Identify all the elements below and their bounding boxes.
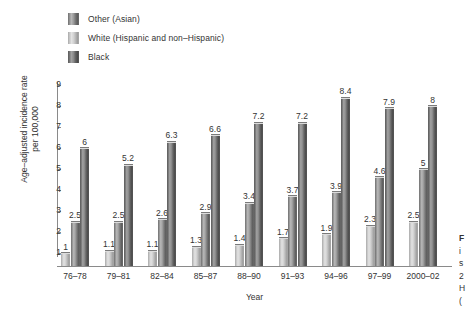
bar-cap xyxy=(385,107,394,109)
bar-cap xyxy=(428,105,437,107)
bar-cap xyxy=(148,250,157,252)
bar-group: 1.12.66.3 xyxy=(148,82,176,266)
y-axis-title-line1: Age–adjusted incidence rate xyxy=(19,54,30,204)
bar-value-label: 7.2 xyxy=(296,112,308,121)
x-axis-baseline xyxy=(57,266,452,267)
bar-value-label: 7.2 xyxy=(253,112,265,121)
bar-cap xyxy=(71,221,80,223)
caption-fragment: Fis2H( xyxy=(459,232,472,307)
bar-group: 12.56 xyxy=(61,82,89,266)
bar-cap xyxy=(341,97,350,99)
bar-cap xyxy=(235,244,244,246)
bar-cap xyxy=(366,225,375,227)
bar-white[interactable]: 1 xyxy=(61,253,70,266)
bar-white[interactable]: 1.9 xyxy=(322,234,331,266)
bar-value-label: 6.6 xyxy=(209,125,221,134)
bar-other[interactable]: 2.9 xyxy=(201,213,210,266)
bar-white[interactable]: 2.5 xyxy=(409,222,418,267)
bar-cap xyxy=(192,246,201,248)
caption-fragment-line: F xyxy=(459,232,472,245)
bar-other[interactable]: 5 xyxy=(419,169,428,266)
bar-group: 1.32.96.6 xyxy=(192,82,220,266)
bar-cap xyxy=(105,250,114,252)
bar-black[interactable]: 6.3 xyxy=(167,142,176,266)
bar-cap xyxy=(298,122,307,124)
bar-white[interactable]: 1.7 xyxy=(279,238,288,266)
caption-fragment-line: s xyxy=(459,257,472,270)
y-axis-title: Age–adjusted incidence rate per 100,000 xyxy=(19,54,41,204)
y-axis-title-line2: per 100,000 xyxy=(30,54,41,204)
bar-white[interactable]: 2.3 xyxy=(366,226,375,266)
x-axis-title: Year xyxy=(57,292,452,302)
bar-black[interactable]: 7.2 xyxy=(298,123,307,266)
bar-cap xyxy=(245,202,254,204)
bar-other[interactable]: 3.4 xyxy=(245,203,254,266)
bar-value-label: 6.3 xyxy=(166,131,178,140)
bar-value-label: 7.9 xyxy=(383,98,395,107)
bar-value-label: 8 xyxy=(430,96,435,105)
x-axis-tick-label: 2000–02 xyxy=(393,271,453,281)
bar-value-label: 1 xyxy=(63,243,68,252)
bar-cap xyxy=(167,141,176,143)
bar-black[interactable]: 6 xyxy=(80,148,89,266)
bar-group: 2.34.67.9 xyxy=(366,82,394,266)
bar-value-label: 5.2 xyxy=(122,154,134,163)
bar-cap xyxy=(80,147,89,149)
caption-fragment-line: H xyxy=(459,282,472,295)
bar-cap xyxy=(332,191,341,193)
bar-black[interactable]: 7.2 xyxy=(254,123,263,266)
bar-chart: 123456789 Age–adjusted incidence rate pe… xyxy=(0,0,472,316)
bar-cap xyxy=(254,122,263,124)
bar-black[interactable]: 8.4 xyxy=(341,98,350,266)
bar-cap xyxy=(322,233,331,235)
bar-cap xyxy=(61,252,70,254)
bar-value-label: 6 xyxy=(82,138,87,147)
bar-other[interactable]: 2.6 xyxy=(158,219,167,266)
bar-group: 1.43.47.2 xyxy=(235,82,263,266)
bar-black[interactable]: 8 xyxy=(428,106,437,266)
bar-cap xyxy=(279,237,288,239)
bar-cap xyxy=(211,134,220,136)
bar-value-label: 5 xyxy=(421,159,426,168)
bar-value-label: 8.4 xyxy=(340,87,352,96)
bar-cap xyxy=(201,212,210,214)
bar-cap xyxy=(419,168,428,170)
caption-fragment-line: ( xyxy=(459,295,472,308)
bar-black[interactable]: 5.2 xyxy=(124,165,133,266)
bar-cap xyxy=(409,221,418,223)
bar-white[interactable]: 1.3 xyxy=(192,247,201,266)
caption-fragment-line: i xyxy=(459,245,472,258)
bar-cap xyxy=(114,221,123,223)
bar-other[interactable]: 4.6 xyxy=(375,177,384,266)
caption-fragment-line: 2 xyxy=(459,270,472,283)
bar-group: 1.12.55.2 xyxy=(105,82,133,266)
bar-cap xyxy=(124,164,133,166)
bar-cap xyxy=(158,218,167,220)
bar-other[interactable]: 2.5 xyxy=(114,222,123,267)
bar-white[interactable]: 1.1 xyxy=(148,251,157,266)
bar-white[interactable]: 1.1 xyxy=(105,251,114,266)
bar-black[interactable]: 6.6 xyxy=(211,135,220,266)
bar-other[interactable]: 3.9 xyxy=(332,192,341,266)
bar-other[interactable]: 3.7 xyxy=(288,196,297,266)
bar-group: 2.558 xyxy=(409,82,437,266)
bar-cap xyxy=(288,195,297,197)
bar-other[interactable]: 2.5 xyxy=(71,222,80,267)
bar-white[interactable]: 1.4 xyxy=(235,245,244,266)
bar-cap xyxy=(375,176,384,178)
bar-black[interactable]: 7.9 xyxy=(385,108,394,266)
bar-group: 1.93.98.4 xyxy=(322,82,350,266)
bar-group: 1.73.77.2 xyxy=(279,82,307,266)
bars-layer: 12.561.12.55.21.12.66.31.32.96.61.43.47.… xyxy=(58,82,452,266)
